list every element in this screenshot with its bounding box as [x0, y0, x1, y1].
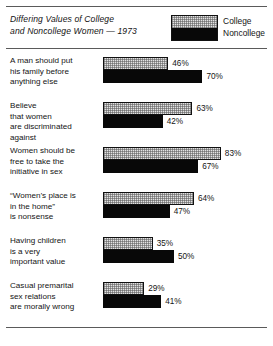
bar-college: [103, 282, 144, 295]
group-label-line: his family before: [10, 67, 103, 78]
chart-legend: College Noncollege: [171, 15, 265, 41]
bar-value-college: 83%: [225, 149, 241, 158]
bar-noncollege: [103, 205, 170, 218]
group-bars: 35%50%: [103, 235, 273, 263]
bar-row-noncollege: 50%: [103, 250, 273, 263]
bar-row-noncollege: 42%: [103, 115, 273, 128]
group-label-line: that women: [10, 112, 103, 123]
group-label-line: are morally wrong: [10, 302, 103, 313]
group-label-line: against: [10, 133, 103, 144]
group-bars: 29%41%: [103, 280, 273, 308]
bar-noncollege: [103, 295, 161, 308]
legend-label-college: College: [223, 15, 265, 27]
chart-group: Believethat womenare discriminatedagains…: [0, 100, 273, 145]
group-label: Casual premaritalsex relationsare morall…: [0, 280, 103, 313]
bar-value-noncollege: 42%: [167, 117, 183, 126]
bar-row-noncollege: 70%: [103, 70, 273, 83]
group-label: A man should puthis family beforeanythin…: [0, 55, 103, 88]
group-label-line: anything else: [10, 77, 103, 88]
bar-value-college: 63%: [196, 104, 212, 113]
chart-group: Women should befree to take theinitiativ…: [0, 145, 273, 190]
chart-figure: Differing Values of College and Noncolle…: [0, 6, 273, 346]
chart-group: Having childrenis a veryimportant value3…: [0, 235, 273, 280]
group-label: Believethat womenare discriminatedagains…: [0, 100, 103, 143]
bar-row-college: 63%: [103, 102, 273, 115]
group-label-line: initiative in sex: [10, 167, 103, 178]
bar-college: [103, 57, 168, 70]
bar-value-college: 35%: [157, 239, 173, 248]
chart-group: Casual premaritalsex relationsare morall…: [0, 280, 273, 325]
bar-row-college: 35%: [103, 237, 273, 250]
bar-college: [103, 102, 192, 115]
group-bars: 83%67%: [103, 145, 273, 173]
bar-noncollege: [103, 70, 202, 83]
bar-college: [103, 147, 221, 160]
group-bars: 46%70%: [103, 55, 273, 83]
group-label-line: A man should put: [10, 56, 103, 67]
bar-value-college: 29%: [148, 284, 164, 293]
group-label-line: are discriminated: [10, 122, 103, 133]
bar-noncollege: [103, 250, 174, 263]
bar-row-college: 64%: [103, 192, 273, 205]
legend-swatch-college: [172, 16, 217, 28]
bar-noncollege: [103, 160, 198, 173]
chart-body: A man should puthis family beforeanythin…: [0, 49, 273, 325]
bar-value-noncollege: 70%: [206, 72, 222, 81]
group-label: “Women’s place isin the home”is nonsense: [0, 190, 103, 223]
group-label-line: is a very: [10, 247, 103, 258]
bottom-divider: [6, 327, 267, 328]
group-label-line: Believe: [10, 101, 103, 112]
bar-row-college: 83%: [103, 147, 273, 160]
bar-college: [103, 192, 194, 205]
legend-label-noncollege: Noncollege: [223, 27, 265, 39]
bar-value-college: 64%: [198, 194, 214, 203]
group-label-line: “Women’s place is: [10, 191, 103, 202]
group-label-line: important value: [10, 257, 103, 268]
bar-value-noncollege: 50%: [178, 252, 194, 261]
group-label-line: free to take the: [10, 157, 103, 168]
bar-row-noncollege: 47%: [103, 205, 273, 218]
group-bars: 63%42%: [103, 100, 273, 128]
group-bars: 64%47%: [103, 190, 273, 218]
legend-swatch-noncollege: [172, 28, 217, 40]
chart-title-line-2: and Noncollege Women — 1973: [10, 26, 160, 38]
bar-row-college: 29%: [103, 282, 273, 295]
group-label-line: is nonsense: [10, 212, 103, 223]
legend-swatch: [171, 15, 218, 41]
bar-value-noncollege: 67%: [202, 162, 218, 171]
group-label: Women should befree to take theinitiativ…: [0, 145, 103, 178]
group-label-line: in the home”: [10, 202, 103, 213]
chart-group: “Women’s place isin the home”is nonsense…: [0, 190, 273, 235]
group-label-line: sex relations: [10, 292, 103, 303]
bar-row-noncollege: 67%: [103, 160, 273, 173]
chart-title-line-1: Differing Values of College: [10, 14, 160, 26]
legend-labels: College Noncollege: [223, 15, 265, 40]
bar-value-noncollege: 47%: [174, 207, 190, 216]
group-label-line: Having children: [10, 236, 103, 247]
chart-group: A man should puthis family beforeanythin…: [0, 55, 273, 100]
bar-value-college: 46%: [172, 59, 188, 68]
group-label: Having childrenis a veryimportant value: [0, 235, 103, 268]
bar-row-noncollege: 41%: [103, 295, 273, 308]
chart-title: Differing Values of College and Noncolle…: [10, 14, 160, 37]
bar-value-noncollege: 41%: [165, 297, 181, 306]
group-label-line: Casual premarital: [10, 281, 103, 292]
bar-college: [103, 237, 153, 250]
bar-noncollege: [103, 115, 163, 128]
chart-header: Differing Values of College and Noncolle…: [0, 7, 273, 48]
bar-row-college: 46%: [103, 57, 273, 70]
group-label-line: Women should be: [10, 146, 103, 157]
